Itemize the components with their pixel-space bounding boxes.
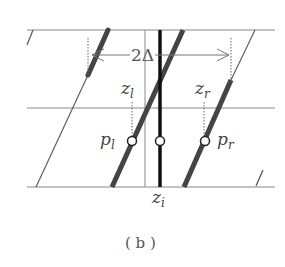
label-zl: zl	[120, 78, 134, 101]
bottom-right-tick	[256, 170, 263, 186]
label-pl: pl	[100, 129, 115, 152]
point-pl-circle	[128, 137, 137, 146]
right-slanted-thin	[231, 30, 255, 80]
top-left-tick	[27, 30, 33, 45]
point-center-circle	[156, 137, 165, 146]
label-pr: pr	[217, 129, 235, 152]
figure-caption: ( b )	[125, 234, 156, 252]
diagram-canvas: 2Δ zl zr pl pr zi ( b )	[0, 0, 285, 267]
point-pr-circle	[201, 137, 210, 146]
dimension-label: 2Δ	[131, 45, 154, 65]
label-zr: zr	[194, 78, 211, 101]
left-slanted-thin	[36, 75, 88, 187]
label-zi: zi	[151, 187, 165, 210]
